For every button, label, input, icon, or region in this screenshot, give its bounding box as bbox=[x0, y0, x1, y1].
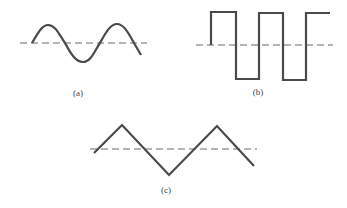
figure-a-sine-wave bbox=[20, 24, 147, 62]
triangle-wave bbox=[94, 125, 254, 175]
square-wave bbox=[211, 12, 330, 80]
figure-label-a: (a) bbox=[73, 88, 83, 98]
waveform-diagram bbox=[0, 0, 347, 208]
figure-label-b: (b) bbox=[253, 87, 264, 97]
figure-label-c: (c) bbox=[161, 185, 171, 195]
figure-c-triangle-wave bbox=[90, 125, 257, 175]
figure-b-square-wave bbox=[196, 12, 333, 80]
